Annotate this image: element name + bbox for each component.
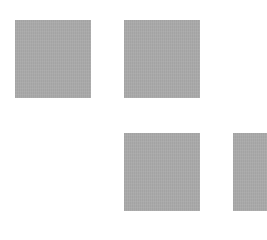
gray-tile-row2-col2 <box>124 133 200 211</box>
gray-tile-row1-col1 <box>15 20 91 98</box>
gray-tile-row2-col3 <box>233 133 267 211</box>
gray-tile-row1-col2 <box>124 20 200 98</box>
